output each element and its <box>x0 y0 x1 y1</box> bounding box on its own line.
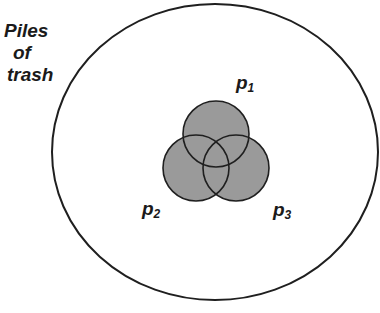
region-label-line-1: Piles <box>4 20 53 42</box>
diagram-canvas <box>0 0 380 313</box>
set-label-p1: p1 <box>236 73 254 98</box>
set-label-p3: p3 <box>273 200 291 225</box>
region-label: Piles of trash <box>4 20 53 86</box>
region-label-line-3: trash <box>4 64 53 86</box>
set-label-p1-subscript: 1 <box>248 81 255 95</box>
set-label-p1-name: p <box>236 72 248 93</box>
region-label-line-2: of <box>4 42 53 64</box>
set-label-p3-subscript: 3 <box>285 208 292 222</box>
set-label-p2: p2 <box>142 199 160 224</box>
set-label-p2-subscript: 2 <box>154 207 161 221</box>
set-label-p2-name: p <box>142 198 154 219</box>
set-label-p3-name: p <box>273 199 285 220</box>
